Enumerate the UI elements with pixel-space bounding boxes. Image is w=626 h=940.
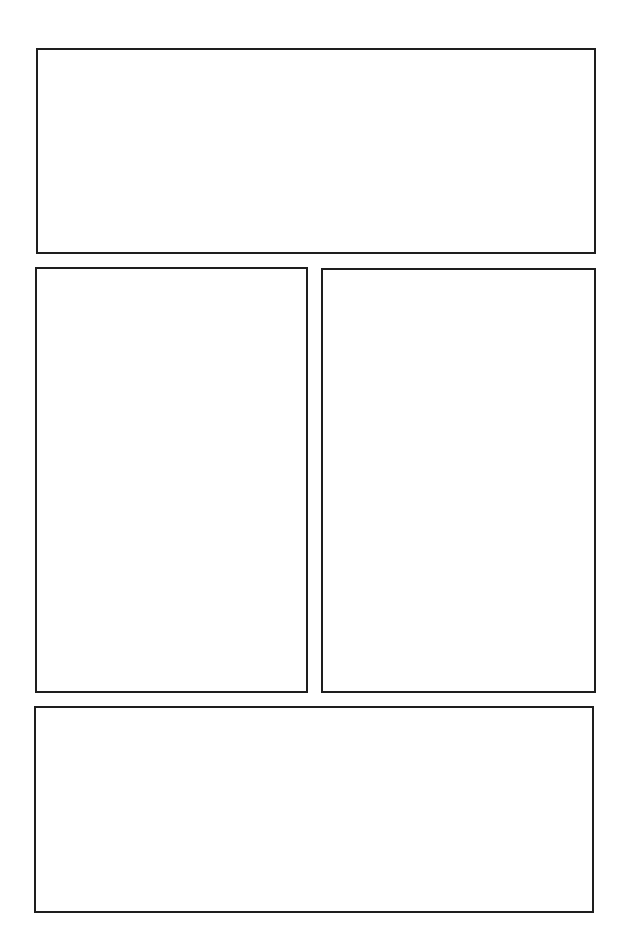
comic-panel-middle-right	[321, 268, 596, 693]
comic-panel-top	[36, 48, 596, 254]
comic-panel-middle-left	[35, 267, 308, 693]
comic-panel-bottom	[34, 706, 594, 913]
